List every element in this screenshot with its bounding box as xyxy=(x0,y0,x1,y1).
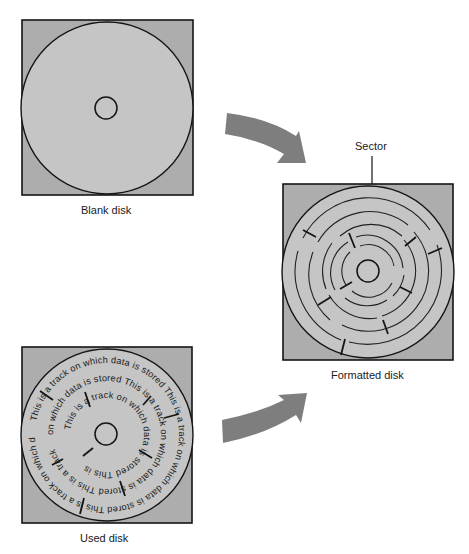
blank-disk-label: Blank disk xyxy=(81,204,131,216)
curved-arrow-icon xyxy=(225,113,306,163)
formatted-disk xyxy=(282,156,454,360)
center-hole xyxy=(95,423,117,445)
center-hole xyxy=(357,260,379,282)
formatted-disk-label: Formatted disk xyxy=(331,369,404,381)
arrow-used-to-formatted xyxy=(222,393,307,443)
arrow-blank-to-formatted xyxy=(225,113,306,163)
used-disk-label: Used disk xyxy=(80,532,128,544)
center-hole xyxy=(95,97,117,119)
sector-callout-label: Sector xyxy=(355,140,387,152)
disk-formatting-diagram: This is a track on which data is stored … xyxy=(0,0,469,554)
blank-disk xyxy=(21,20,193,195)
curved-arrow-icon xyxy=(222,393,307,443)
